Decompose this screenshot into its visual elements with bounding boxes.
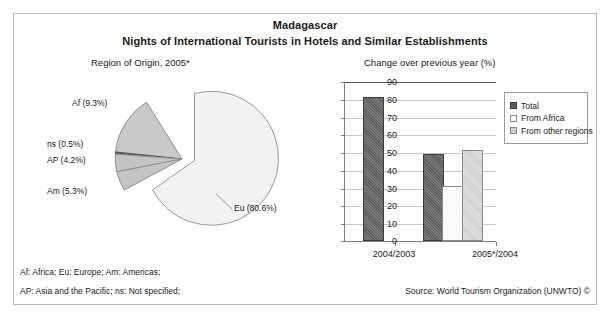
legend-swatch-from-africa [510,115,517,122]
bar-from-other-regions-2005-2004 [462,150,483,241]
ytick-0: 0 [375,237,397,246]
bar-total-2005-2004 [423,154,444,241]
pie-label-eu: Eu (80.6%) [234,203,277,213]
ytick-50: 50 [375,149,397,158]
legend-label-from-africa: From Africa [521,113,564,123]
pie-label-af: Af (9.3%) [72,98,107,108]
page-subtitle: Nights of International Tourists in Hote… [14,35,596,47]
ytick-80: 80 [375,96,397,105]
ytick-30: 30 [375,185,397,194]
pie-label-am: Am (5.3%) [47,186,87,196]
pie-chart: Af (9.3%) ns (0.5%) AP (4.2%) Am (5.3%) … [34,76,309,241]
footnote-line-1: Af: Africa; Eu: Europe; Am: Americas; [20,267,160,277]
legend-swatch-total [510,102,517,109]
gridline-90 [345,82,496,83]
chart-card: Madagascar Nights of International Touri… [13,13,597,305]
bar-from-africa-2005-2004 [442,186,463,241]
ytick-70: 70 [375,114,397,123]
pie-slice-af [116,102,183,159]
xlabel-2004-2003: 2004/2003 [359,249,429,259]
pie-label-ns: ns (0.5%) [47,139,83,149]
legend-label-from-other-regions: From other regions [521,126,593,136]
legend-item-total: Total [510,101,583,111]
legend-item-from-other-regions: From other regions [510,126,583,136]
legend-swatch-from-other-regions [510,127,517,134]
pie-chart-caption: Region of Origin, 2005* [91,57,190,68]
footnote-line-2: AP: Asia and the Pacific; ns: Not specif… [20,286,180,296]
ytick-40: 40 [375,167,397,176]
xlabel-2005-2004: 2005*/2004 [460,249,530,259]
ytick-20: 20 [375,202,397,211]
legend-label-total: Total [521,101,539,111]
ytick-60: 60 [375,131,397,140]
pie-label-ap: AP (4.2%) [47,155,86,165]
source-note: Source: World Tourism Organization (UNWT… [405,286,590,296]
ytick-90: 90 [375,78,397,87]
page-title: Madagascar [14,19,596,31]
legend-item-from-africa: From Africa [510,113,583,123]
bar-chart-legend: Total From Africa From other regions [504,92,588,144]
bar-chart-caption: Change over previous year (%) [364,57,495,68]
bar-chart: 90 80 70 60 50 40 30 20 10 0 2004/2003 2… [306,74,591,259]
bar-chart-plot-area [344,82,496,242]
ytick-10: 10 [375,220,397,229]
